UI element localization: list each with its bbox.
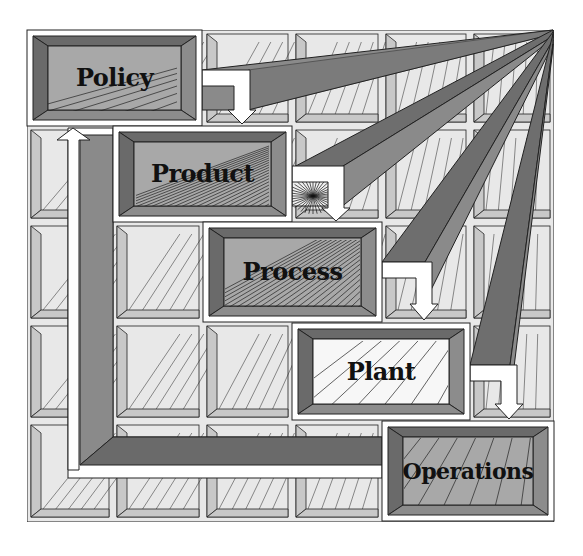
box-label-policy: Policy bbox=[76, 63, 155, 92]
box-label-plant: Plant bbox=[347, 357, 416, 386]
hierarchy-diagram: PolicyProductProcessPlantOperations bbox=[0, 0, 583, 556]
box-label-process: Process bbox=[242, 257, 342, 286]
box-label-product: Product bbox=[151, 159, 255, 188]
box-label-operations: Operations bbox=[403, 458, 534, 484]
